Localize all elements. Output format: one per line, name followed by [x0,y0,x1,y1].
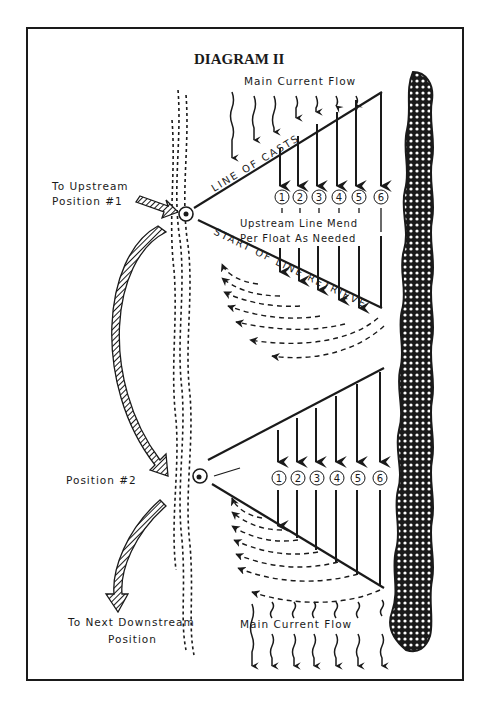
svg-text:3: 3 [314,473,320,484]
mend-label-1: Upstream Line Mend [240,218,358,229]
main-current-flow-top-label: Main Current Flow [244,75,356,87]
angler-position1-icon [179,207,193,221]
to-next-downstream-label: To Next Downstream [67,616,195,628]
drift-arrows-bottom [278,372,380,462]
diagram-canvas: DIAGRAM II To Upstream Position #1 Posit… [0,0,486,708]
current-arrows-top [231,92,358,158]
upstream-to-position2-arrow [112,226,168,476]
svg-text:5: 5 [356,192,362,203]
svg-text:1: 1 [279,192,285,203]
to-upstream-label-2: Position #1 [52,195,123,207]
drift-arrows-bottom-lower [278,490,380,586]
svg-text:6: 6 [378,192,384,203]
float-positions-bottom: 1 2 3 4 5 6 [272,471,387,485]
to-next-downstream-label-2: Position [108,633,157,645]
line-of-casts-label: LINE OF CASTS [209,132,301,193]
main-current-flow-bottom-label: Main Current Flow [240,618,352,630]
current-arrows-bottom [251,600,384,666]
line-of-casts [194,92,382,208]
far-riverbank [390,72,433,651]
to-upstream-label: To Upstream [51,180,129,192]
svg-text:1: 1 [276,473,282,484]
near-shoreline [172,90,194,655]
position2-label: Position #2 [66,474,137,486]
svg-text:2: 2 [295,473,301,484]
svg-text:4: 4 [336,192,342,203]
svg-text:6: 6 [377,473,383,484]
svg-text:3: 3 [316,192,322,203]
float-positions-top: 1 2 3 4 5 6 [275,190,388,204]
to-next-downstream-arrow [106,500,166,612]
angler-position2-icon [193,469,207,483]
diagram-title: DIAGRAM II [194,51,285,67]
svg-text:2: 2 [297,192,303,203]
rod-line-2 [214,468,240,476]
svg-text:5: 5 [355,473,361,484]
svg-text:4: 4 [334,473,340,484]
mend-label-2: Per Float As Needed [240,233,356,244]
